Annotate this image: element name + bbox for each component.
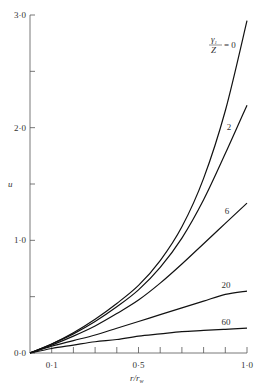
- x-tick-label: 1·0: [241, 360, 253, 370]
- curve-labels: 262060: [222, 122, 232, 327]
- curve-gamma-0: [30, 21, 247, 353]
- y-tick-label: 2·0: [14, 123, 26, 133]
- curve-label-60: 60: [222, 317, 232, 327]
- legend-title: γ1 Z = 0: [209, 34, 236, 55]
- curve-gamma-2: [30, 105, 247, 353]
- svg-text:γ1: γ1: [211, 34, 217, 45]
- y-tick-label: 0·0: [14, 348, 26, 358]
- svg-text:= 0: = 0: [224, 40, 236, 50]
- curve-label-2: 2: [227, 122, 232, 132]
- y-tick-label: 1·0: [14, 235, 26, 245]
- y-axis-label: u: [8, 179, 13, 189]
- svg-text:r/rw: r/rw: [130, 373, 144, 384]
- curve-label-6: 6: [225, 206, 230, 216]
- curve-label-20: 20: [222, 280, 232, 290]
- svg-text:Z: Z: [211, 45, 217, 55]
- x-tick-label: 0·1: [46, 360, 58, 370]
- y-tick-label: 3·0: [14, 10, 26, 20]
- chart-canvas: 0·01·02·03·00·10·51·0 262060 u r/rw γ1 Z…: [0, 0, 263, 390]
- x-axis-label: r/rw: [130, 373, 144, 384]
- curves: [30, 21, 247, 353]
- axes: 0·01·02·03·00·10·51·0: [14, 10, 253, 370]
- curve-gamma-6: [30, 203, 247, 353]
- x-tick-label: 0·5: [133, 360, 145, 370]
